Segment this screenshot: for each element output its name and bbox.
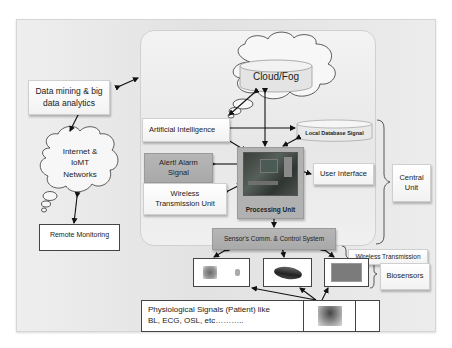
wearable-sensor-image — [203, 266, 217, 279]
alert-alarm-box: Alert! Alarm Signal — [144, 153, 213, 183]
central-unit-brace — [376, 120, 390, 244]
central-unit-box: Central Unit — [392, 164, 431, 202]
data-mining-line1: Data mining & big — [35, 86, 102, 97]
patch-sensor-image — [331, 263, 362, 282]
central-unit-label: Central Unit — [399, 173, 424, 193]
user-interface-box: User Interface — [313, 163, 374, 185]
small-sensor-image — [235, 269, 240, 276]
wireless-transmission-unit-box: Wireless Transmission Unit — [143, 183, 227, 215]
physiological-signals-line2: BL, ECG, OSL, etc……….. — [148, 315, 297, 326]
data-mining-line2: data analytics — [35, 98, 102, 109]
user-interface-label: User Interface — [320, 169, 367, 179]
remote-monitoring-label: Remote Monitoring — [50, 230, 109, 239]
patient-image-cell — [303, 301, 356, 331]
biosensor-3-box — [324, 258, 369, 287]
internet-line3: Networks — [63, 169, 96, 180]
internet-iomt-networks-label: Internet & IoMT Networks — [50, 140, 110, 186]
artificial-intelligence-label: Artificial Intelligence — [149, 125, 215, 135]
alert-alarm-label: Alert! Alarm Signal — [155, 158, 202, 178]
physiological-signals-text: Physiological Signals (Patient) like BL,… — [142, 301, 303, 331]
internet-line1: Internet & — [63, 146, 98, 157]
cloud-fog-label: Cloud/Fog — [240, 68, 312, 84]
sensors-comm-control-label: Sensor's Comm. & Control System — [224, 235, 324, 244]
wireless-transmission-unit-label: Wireless Transmission Unit — [152, 189, 218, 209]
biosensor-1-box — [193, 258, 250, 287]
internet-line2: IoMT — [71, 157, 89, 168]
data-mining-box: Data mining & big data analytics — [28, 80, 110, 115]
remote-monitoring-box: Remote Monitoring — [39, 224, 120, 251]
biosensor-2-box — [263, 258, 312, 287]
physiological-signals-line1: Physiological Signals (Patient) like — [148, 304, 297, 315]
local-database-label: Local Database Signal — [297, 127, 372, 138]
processing-unit-box: Processing Unit — [237, 147, 304, 219]
wristband-sensor-image — [273, 265, 302, 281]
artificial-intelligence-box: Artificial Intelligence — [142, 118, 230, 142]
sensors-comm-control-box: Sensor's Comm. & Control System — [212, 228, 336, 250]
patient-image — [318, 306, 342, 326]
physiological-signals-box: Physiological Signals (Patient) like BL,… — [141, 300, 380, 332]
biosensors-label: Biosensors — [386, 271, 423, 281]
biosensors-label-box: Biosensors — [380, 263, 430, 290]
processing-unit-label: Processing Unit — [246, 206, 295, 215]
circuit-board-image — [243, 152, 298, 196]
empty-cell — [356, 301, 379, 331]
